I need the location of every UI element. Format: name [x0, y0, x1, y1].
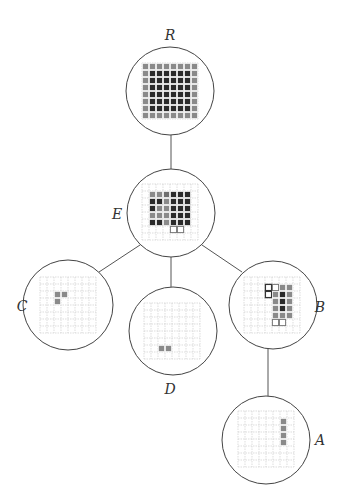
- grid-cell: [191, 63, 197, 69]
- grid-cell: [170, 105, 176, 111]
- grid-cell: [142, 63, 148, 69]
- grid-cell: [149, 112, 155, 118]
- grid-cell: [158, 345, 164, 351]
- grid-cell: [191, 112, 197, 118]
- grid-cell: [191, 77, 197, 83]
- grid-cell: [163, 91, 169, 97]
- grid-cell: [184, 191, 190, 197]
- grid-cell: [149, 205, 155, 211]
- grid-cell: [265, 284, 271, 290]
- grid-cell: [61, 291, 67, 297]
- grid-cell: [184, 219, 190, 225]
- grid-cell: [156, 219, 162, 225]
- node-d: D: [129, 287, 217, 397]
- grid-cell: [149, 70, 155, 76]
- grid-cell: [272, 319, 278, 325]
- grid-cell: [149, 219, 155, 225]
- grid-cell: [156, 205, 162, 211]
- grid-cell: [177, 84, 183, 90]
- grid-cell: [170, 191, 176, 197]
- grid-cell: [163, 105, 169, 111]
- grid-cell: [177, 191, 183, 197]
- grid-cell: [156, 84, 162, 90]
- grid-cell: [177, 205, 183, 211]
- grid-cell: [272, 305, 278, 311]
- grid-cell: [142, 98, 148, 104]
- grid-cell: [279, 291, 285, 297]
- grid-cell: [156, 98, 162, 104]
- grid-cell: [170, 70, 176, 76]
- grid-cell: [279, 298, 285, 304]
- grid-cell: [191, 98, 197, 104]
- grid-cell: [170, 198, 176, 204]
- grid-cell: [280, 439, 286, 445]
- grid-cell: [54, 291, 60, 297]
- grid-cell: [142, 84, 148, 90]
- grid-cell: [149, 191, 155, 197]
- grid-cell: [279, 319, 285, 325]
- grid-cell: [272, 298, 278, 304]
- grid-cell: [170, 219, 176, 225]
- grid-cell: [177, 198, 183, 204]
- grid-cell: [272, 312, 278, 318]
- grid-cell: [142, 70, 148, 76]
- grid-cell: [170, 205, 176, 211]
- grid-cell: [163, 98, 169, 104]
- node-label-r: R: [164, 27, 176, 43]
- grid-cell: [156, 198, 162, 204]
- grid-cell: [163, 84, 169, 90]
- grid-cell: [149, 91, 155, 97]
- grid-cell: [177, 91, 183, 97]
- grid-cell: [191, 91, 197, 97]
- node-label-c: C: [17, 298, 28, 314]
- grid-cell: [191, 84, 197, 90]
- grid-cell: [184, 198, 190, 204]
- grid-cell: [149, 198, 155, 204]
- edge-e-b: [202, 245, 242, 272]
- tree-nodes: RECDBA: [17, 27, 326, 484]
- tree-diagram: RECDBA: [0, 0, 342, 501]
- node-c: C: [17, 260, 113, 350]
- grid-cell: [265, 291, 271, 297]
- grid-cell: [163, 198, 169, 204]
- grid-cell: [156, 112, 162, 118]
- grid-cell: [184, 212, 190, 218]
- grid-cell: [142, 112, 148, 118]
- grid-cell: [177, 105, 183, 111]
- grid-cell: [177, 63, 183, 69]
- grid-cell: [163, 112, 169, 118]
- grid-cell: [163, 191, 169, 197]
- grid-cell: [170, 98, 176, 104]
- grid-cell: [149, 105, 155, 111]
- grid-cell: [156, 77, 162, 83]
- grid-cell: [279, 284, 285, 290]
- grid-cell: [177, 219, 183, 225]
- grid-cell: [156, 212, 162, 218]
- grid-cell: [177, 98, 183, 104]
- grid-cell: [272, 291, 278, 297]
- grid-cell: [170, 212, 176, 218]
- grid-cell: [156, 63, 162, 69]
- grid-cell: [177, 77, 183, 83]
- grid-cell: [184, 105, 190, 111]
- grid-cell: [286, 305, 292, 311]
- grid-cell: [286, 284, 292, 290]
- grid-cell: [184, 205, 190, 211]
- grid-cell: [177, 212, 183, 218]
- grid-cell: [163, 77, 169, 83]
- grid-cell: [170, 91, 176, 97]
- grid-cell: [156, 70, 162, 76]
- grid-cell: [177, 70, 183, 76]
- grid-cell: [184, 112, 190, 118]
- node-label-d: D: [163, 381, 175, 397]
- grid-cell: [163, 63, 169, 69]
- grid-cell: [54, 298, 60, 304]
- grid-cell: [170, 112, 176, 118]
- grid-cell: [184, 84, 190, 90]
- node-label-e: E: [111, 206, 122, 222]
- grid-cell: [163, 219, 169, 225]
- grid-cell: [280, 432, 286, 438]
- grid-cell: [286, 291, 292, 297]
- grid-cell: [149, 84, 155, 90]
- grid-cell: [156, 191, 162, 197]
